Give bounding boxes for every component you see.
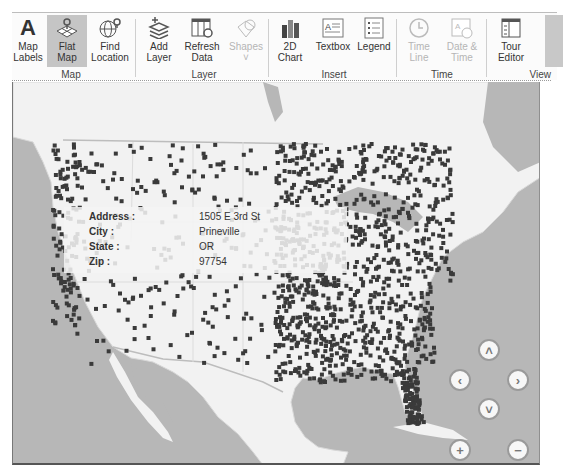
pan-up-button[interactable]: ˄: [478, 339, 500, 361]
group-label-layer: Layer: [140, 69, 268, 80]
refresh-data-icon: [190, 17, 214, 39]
time-line-button[interactable]: Time Line: [400, 15, 438, 67]
add-layer-icon: [147, 17, 171, 39]
land-cuba: [393, 422, 468, 440]
date-time-icon: A: [450, 17, 474, 39]
zoom-in-button[interactable]: +: [449, 439, 471, 461]
map-base-layer: [13, 82, 540, 465]
svg-text:A: A: [455, 22, 461, 31]
chevron-left-icon: ‹: [458, 373, 462, 388]
ribbon-separator: [396, 19, 397, 77]
chevron-up-icon: ˄: [485, 343, 493, 358]
minus-icon: −: [514, 443, 522, 458]
ribbon-group-time: Time Line A Date & Time Time: [400, 13, 484, 81]
shapes-icon: [234, 17, 258, 39]
chart-2d-icon: [278, 17, 302, 39]
time-line-icon: [407, 17, 431, 39]
find-location-button[interactable]: Find Location: [90, 15, 130, 67]
map-canvas[interactable]: Address : 1505 E 3rd St City : Prinevill…: [12, 82, 540, 465]
ribbon-scroll-tab[interactable]: [545, 15, 563, 67]
ribbon: A Map Labels Flat Map Find Location: [12, 12, 557, 80]
shapes-button[interactable]: Shapes ˅: [226, 15, 266, 67]
map-labels-icon: A: [16, 17, 40, 39]
plus-icon: +: [456, 443, 464, 458]
ribbon-group-map: A Map Labels Flat Map Find Location: [12, 13, 130, 81]
group-label-insert: Insert: [274, 69, 394, 80]
flat-map-button[interactable]: Flat Map: [47, 15, 87, 67]
textbox-icon: A: [321, 17, 345, 39]
ribbon-group-view: Tour Editor View: [490, 13, 551, 81]
ribbon-separator: [268, 19, 269, 77]
ribbon-separator: [135, 19, 136, 77]
textbox-button[interactable]: A Textbox: [314, 15, 352, 67]
ribbon-group-layer: Add Layer Refresh Data Shapes ˅ Layer: [140, 13, 268, 81]
flat-map-icon: [55, 17, 79, 39]
map-labels-button[interactable]: A Map Labels: [12, 15, 44, 67]
tour-editor-button[interactable]: Tour Editor: [492, 15, 530, 67]
svg-text:A: A: [325, 22, 331, 32]
refresh-data-button[interactable]: Refresh Data: [182, 15, 222, 67]
pan-down-button[interactable]: ˅: [478, 398, 500, 420]
group-label-map: Map: [12, 69, 130, 80]
pan-left-button[interactable]: ‹: [449, 369, 471, 391]
tour-editor-icon: [499, 17, 523, 39]
2d-chart-button[interactable]: 2D Chart: [274, 15, 306, 67]
ribbon-group-insert: 2D Chart A Textbox Legend Insert: [274, 13, 394, 81]
date-time-button[interactable]: A Date & Time: [442, 15, 482, 67]
zoom-out-button[interactable]: −: [507, 439, 529, 461]
legend-icon: [362, 17, 386, 39]
add-layer-button[interactable]: Add Layer: [140, 15, 178, 67]
group-label-view: View: [530, 69, 552, 80]
group-label-time: Time: [400, 69, 484, 80]
pan-right-button[interactable]: ›: [507, 369, 529, 391]
find-location-icon: [98, 17, 122, 39]
legend-button[interactable]: Legend: [356, 15, 392, 67]
chevron-down-icon: ˅: [485, 402, 493, 417]
ribbon-separator: [486, 19, 487, 77]
chevron-right-icon: ›: [516, 373, 520, 388]
location-tooltip: Address : 1505 E 3rd St City : Prinevill…: [64, 207, 347, 273]
